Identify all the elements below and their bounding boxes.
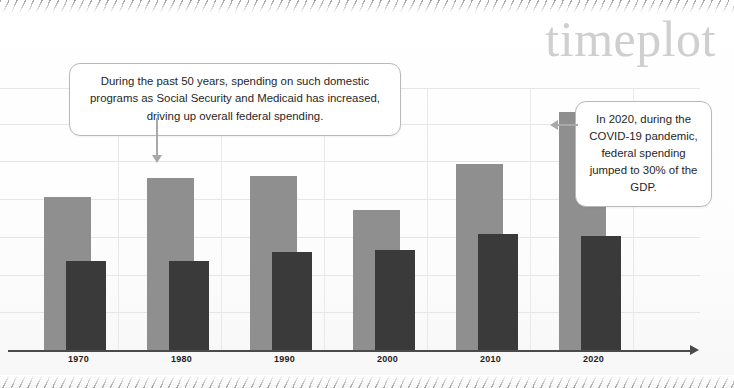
x-axis-label-1970: 1970 [32, 354, 125, 364]
bar-domestic-1990 [272, 252, 312, 350]
bar-domestic-2020 [581, 236, 621, 350]
bar-domestic-2010 [478, 234, 518, 350]
gridline-vertical [427, 88, 428, 350]
callout-right-arrow-line [556, 124, 578, 126]
callout-left-arrow-line [156, 118, 158, 158]
x-axis-label-2020: 2020 [547, 354, 640, 364]
gridline-vertical [530, 88, 531, 350]
arrow-down-icon [152, 155, 162, 163]
x-axis-label-2010: 2010 [444, 354, 537, 364]
bar-domestic-2000 [375, 250, 415, 350]
bar-domestic-1980 [169, 261, 209, 350]
callout-domestic-programs: During the past 50 years, spending on su… [69, 63, 401, 136]
x-axis-label-1980: 1980 [135, 354, 228, 364]
chart-card: timeplot 197019801990200020102020 During… [0, 0, 734, 388]
x-axis-label-2000: 2000 [341, 354, 434, 364]
bar-domestic-1970 [66, 261, 106, 350]
x-axis-line [8, 350, 692, 352]
x-axis-label-1990: 1990 [238, 354, 331, 364]
bottom-hatch-fade [0, 375, 734, 388]
callout-covid-2020: In 2020, during the COVID-19 pandemic, f… [575, 101, 712, 207]
x-axis-arrow-icon [690, 345, 699, 355]
arrow-left-icon [550, 120, 558, 130]
